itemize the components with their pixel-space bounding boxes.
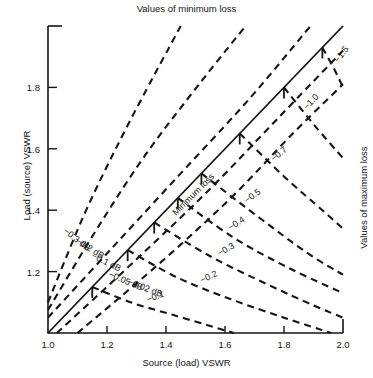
curve-label: −0.2 <box>199 268 219 285</box>
y-tick-label: 1.4 <box>4 205 40 216</box>
diagonal-label: Minimum loss <box>170 171 216 217</box>
contour-curve <box>48 26 311 318</box>
plot-area: −0.3 dB−0.2 dB−0.1 dB−0.05 dB−0.02 dB−0.… <box>0 0 373 378</box>
curve-label: −0.3 <box>216 241 236 259</box>
curve-label: −1.5 <box>332 44 351 64</box>
curve-label: −0.7 <box>269 144 289 163</box>
figure-container: Values of minimum loss Source (load) VSW… <box>0 0 373 378</box>
x-tick-label: 1.2 <box>100 339 113 350</box>
contour-curve <box>240 133 343 228</box>
x-tick-label: 1.6 <box>218 339 231 350</box>
y-tick-label: 1.8 <box>4 82 40 93</box>
contour-curve <box>154 222 343 317</box>
contour-curve <box>48 26 246 310</box>
x-tick-label: 1.0 <box>41 339 54 350</box>
curve-label: −0.4 <box>226 214 246 232</box>
x-tick-label: 2.0 <box>336 339 349 350</box>
contour-curve <box>78 84 344 333</box>
x-tick-label: 1.8 <box>277 339 290 350</box>
y-tick-label: 1.6 <box>4 143 40 154</box>
x-tick-label: 1.4 <box>159 339 172 350</box>
curve-label: −0.5 <box>242 186 262 205</box>
curve-labels: −0.3 dB−0.2 dB−0.1 dB−0.05 dB−0.02 dB−0.… <box>62 44 351 304</box>
y-tick-label: 1.2 <box>4 266 40 277</box>
